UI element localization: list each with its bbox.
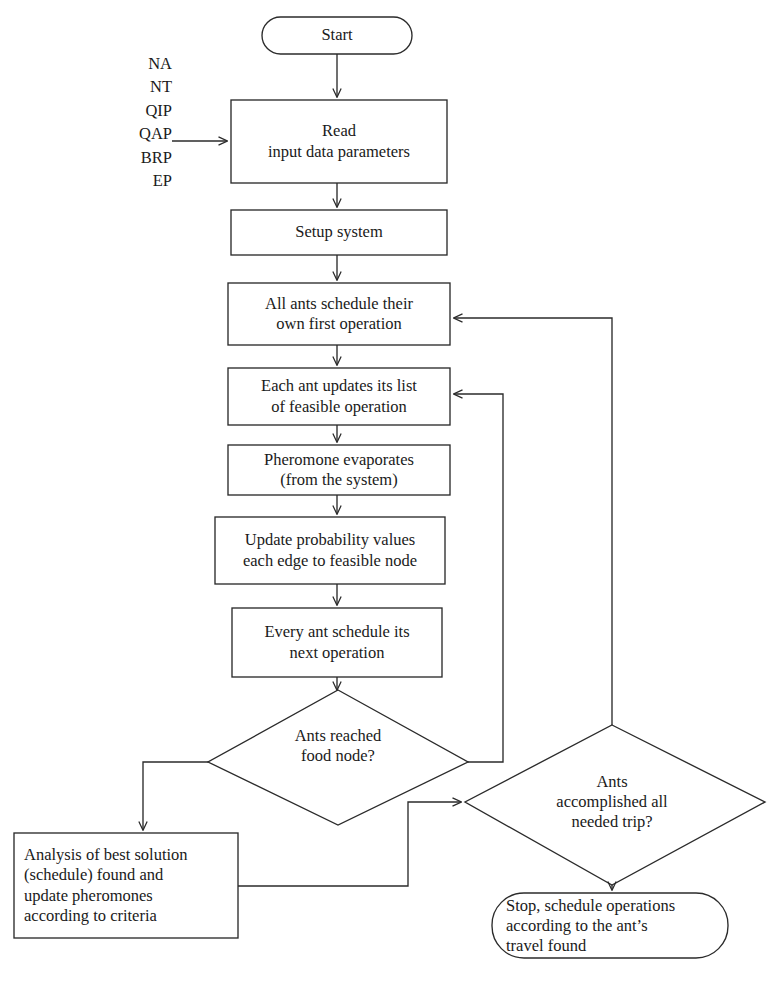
input-parameter-qap: QAP [96, 122, 172, 145]
input-parameter-brp: BRP [96, 146, 172, 169]
input-parameter-nt: NT [96, 75, 172, 98]
node-stop-shape[interactable] [492, 893, 728, 958]
node-read-input-shape[interactable] [231, 100, 447, 183]
node-each-ant-updates-shape[interactable] [228, 368, 450, 425]
input-parameter-qip: QIP [96, 99, 172, 122]
node-analysis-shape[interactable] [14, 833, 238, 938]
node-every-ant-next-shape[interactable] [232, 608, 442, 677]
connector-accomplished-loop-to-all-ants [454, 318, 612, 725]
node-setup-system-shape[interactable] [231, 210, 447, 255]
node-all-ants-first-shape[interactable] [228, 283, 450, 345]
node-ants-accomplished-shape[interactable] [465, 725, 765, 885]
connector-food-decision-loop-to-each-ant [454, 394, 503, 762]
node-ants-reached-food-shape[interactable] [208, 690, 468, 825]
node-update-probability-shape[interactable] [215, 517, 445, 584]
input-parameter-list: NA NT QIP QAP BRP EP [96, 52, 172, 193]
input-parameter-ep: EP [96, 169, 172, 192]
connector-analysis-to-accomplished-decision [238, 802, 461, 886]
input-parameter-na: NA [96, 52, 172, 75]
connector-food-decision-to-analysis [143, 762, 208, 830]
node-pheromone-evaporates-shape[interactable] [228, 445, 450, 495]
node-start-shape[interactable] [262, 17, 412, 54]
